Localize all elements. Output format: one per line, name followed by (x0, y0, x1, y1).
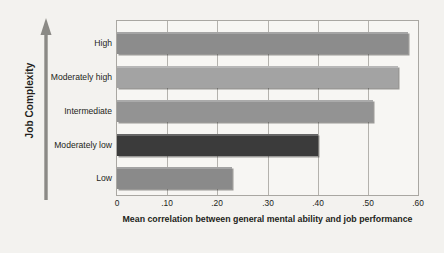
bar-highlight (117, 32, 408, 34)
bar-highlight (117, 66, 398, 68)
bar-moderately-low (117, 134, 318, 156)
category-label: Intermediate (0, 106, 112, 116)
category-label: Moderately high (0, 72, 112, 82)
bar-high (117, 32, 408, 54)
x-tick-label: 0 (115, 198, 120, 208)
x-tick-label: .60 (412, 198, 424, 208)
bar-highlight (117, 134, 318, 136)
x-tick-label: .20 (211, 198, 223, 208)
x-tick-label: .30 (262, 198, 274, 208)
chart-figure: Job Complexity High Moderately high Inte… (0, 0, 444, 253)
category-label: Low (0, 173, 112, 183)
bar-moderately-high (117, 66, 398, 88)
x-axis-title: Mean correlation between general mental … (116, 214, 419, 224)
bar-highlight (117, 167, 232, 169)
bar-intermediate (117, 100, 373, 122)
x-tick-label: .10 (161, 198, 173, 208)
bar-highlight (117, 100, 373, 102)
x-tick-label: .40 (312, 198, 324, 208)
category-label: Moderately low (0, 140, 112, 150)
category-label: High (0, 38, 112, 48)
x-tick-label: .50 (362, 198, 374, 208)
bar-low (117, 167, 232, 189)
category-label-list: High Moderately high Intermediate Modera… (56, 20, 112, 196)
x-tick-list: 0 .10 .20 .30 .40 .50 .60 (116, 198, 419, 212)
plot-area (116, 20, 419, 196)
